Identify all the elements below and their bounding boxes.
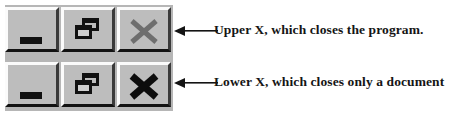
minimize-button-upper[interactable] bbox=[5, 7, 59, 52]
annotation-label-upper: Upper X, which closes the program. bbox=[214, 22, 424, 38]
minimize-button-lower[interactable] bbox=[5, 62, 59, 107]
caption-button-row-upper bbox=[5, 7, 173, 54]
restore-button-upper[interactable] bbox=[61, 7, 115, 52]
restore-button-lower[interactable] bbox=[61, 62, 115, 107]
close-x-icon bbox=[120, 10, 168, 49]
leader-arrow-upper bbox=[174, 24, 218, 38]
annotation-label-lower: Lower X, which closes only a document bbox=[214, 74, 444, 90]
leader-arrow-lower bbox=[174, 76, 218, 90]
annotated-figure: Upper X, which closes the program. Lower… bbox=[0, 0, 461, 121]
close-button-upper[interactable] bbox=[117, 7, 171, 52]
restore-icon bbox=[64, 65, 112, 104]
minimize-icon bbox=[8, 65, 56, 104]
caption-button-row-lower bbox=[5, 62, 173, 109]
close-button-lower[interactable] bbox=[117, 62, 171, 107]
restore-icon bbox=[64, 10, 112, 49]
window-caption-buttons-panel bbox=[5, 5, 173, 111]
close-x-icon bbox=[120, 65, 168, 104]
minimize-icon bbox=[8, 10, 56, 49]
